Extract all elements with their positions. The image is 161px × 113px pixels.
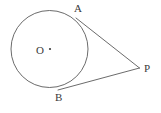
geometry-figure: A B P O — [0, 0, 161, 113]
center-point-dot — [49, 48, 51, 50]
tangent-line-a-to-p — [76, 18, 140, 68]
tangent-line-b-to-p — [58, 68, 140, 90]
point-label-p: P — [144, 63, 150, 74]
geometry-canvas — [0, 0, 161, 113]
point-label-o: O — [36, 45, 44, 56]
point-label-a: A — [74, 3, 82, 14]
point-label-b: B — [55, 92, 62, 103]
